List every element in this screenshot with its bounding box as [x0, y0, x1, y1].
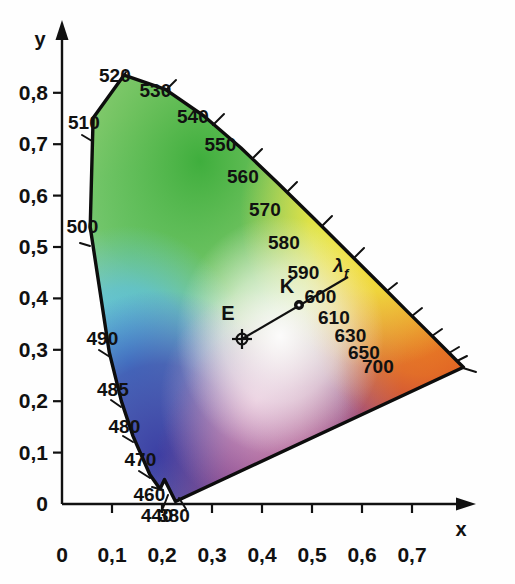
x-tick-label: 0,4: [247, 543, 277, 566]
x-tick-label: 0: [56, 543, 68, 566]
x-tick-label: 0,3: [197, 543, 226, 566]
wavelength-label-380: 380: [158, 505, 190, 526]
chromaticity-diagram: 00,10,20,30,40,50,60,7 00,10,20,30,40,50…: [0, 0, 515, 584]
wavelength-label-470: 470: [125, 449, 157, 470]
y-tick-label: 0,3: [19, 338, 48, 361]
wavelength-label-550: 550: [205, 134, 237, 155]
wavelength-label-560: 560: [227, 166, 259, 187]
wavelength-label-570: 570: [249, 199, 281, 220]
y-tick-label: 0,8: [19, 81, 49, 104]
point-K-marker: [295, 301, 303, 309]
x-tick-label: 0,1: [97, 543, 127, 566]
x-tick-label: 0,7: [397, 543, 426, 566]
wavelength-label-480: 480: [109, 416, 141, 437]
wavelength-label-485: 485: [97, 379, 129, 400]
y-axis-label: y: [34, 28, 46, 50]
y-tick-label: 0,4: [19, 286, 49, 309]
x-tick-label: 0,6: [347, 543, 376, 566]
x-axis-tick-labels: 00,10,20,30,40,50,60,7: [56, 543, 426, 566]
y-axis-tick-labels: 00,10,20,30,40,50,60,70,8: [19, 81, 49, 515]
wavelength-label-510: 510: [68, 112, 100, 133]
wavelength-label-600: 600: [305, 286, 337, 307]
wavelength-label-490: 490: [87, 328, 119, 349]
x-axis-arrowhead: [456, 498, 476, 511]
figure-canvas: 00,10,20,30,40,50,60,7 00,10,20,30,40,50…: [0, 0, 515, 584]
x-tick-label: 0,5: [297, 543, 327, 566]
wavelength-label-530: 530: [140, 80, 172, 101]
y-axis-ticks: [53, 93, 62, 453]
y-tick-label: 0,5: [19, 235, 49, 258]
x-axis-label: x: [455, 518, 466, 540]
y-tick-label: 0: [36, 492, 48, 515]
y-tick-label: 0,6: [19, 184, 48, 207]
wavelength-label-700: 700: [362, 356, 394, 377]
wavelength-label-520: 520: [99, 65, 131, 86]
wavelength-label-580: 580: [268, 232, 300, 253]
wavelength-label-460: 460: [134, 484, 166, 505]
point-E-label: E: [221, 302, 234, 324]
y-tick-label: 0,7: [19, 132, 48, 155]
lambda-symbol: λ: [332, 255, 344, 276]
point-K-label: K: [280, 275, 295, 297]
wavelength-label-500: 500: [67, 216, 99, 237]
x-tick-label: 0,2: [147, 543, 176, 566]
y-axis-arrowhead: [56, 20, 69, 40]
wavelength-label-540: 540: [177, 106, 209, 127]
y-tick-label: 0,1: [19, 441, 49, 464]
y-tick-label: 0,2: [19, 389, 48, 412]
